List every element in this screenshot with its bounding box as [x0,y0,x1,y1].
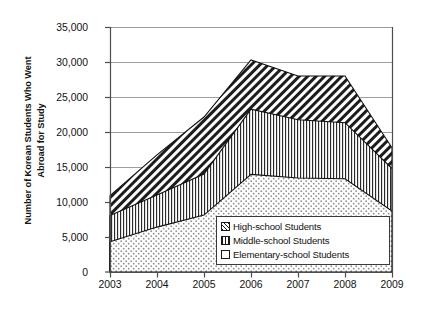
y-axis-ticks [105,28,110,273]
vertical-lines-swatch-icon [221,236,230,245]
chart-legend: High-school Students Middle-school Stude… [216,216,390,265]
legend-item-middle-school: Middle-school Students [221,233,385,247]
legend-label-middle-school: Middle-school Students [233,235,329,246]
legend-label-elementary-school: Elementary-school Students [233,249,349,260]
legend-item-high-school: High-school Students [221,219,385,233]
chart-container: Number of Korean Students Who Went Abroa… [0,0,433,313]
plot-area [0,0,433,313]
legend-item-elementary-school: Elementary-school Students [221,247,385,261]
empty-swatch-icon [221,250,230,259]
x-axis-ticks [111,273,393,278]
diagonal-hatch-swatch-icon [221,222,230,231]
legend-label-high-school: High-school Students [233,221,321,232]
